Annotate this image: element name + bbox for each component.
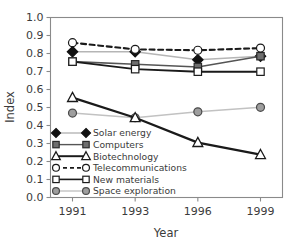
- y-tick-label: 0.2: [26, 155, 44, 168]
- data-point-marker: [131, 45, 139, 53]
- x-tick-label: 1991: [59, 205, 87, 218]
- legend-label: Telecommunications: [92, 162, 187, 173]
- data-point-marker: [257, 68, 264, 75]
- index-by-year-line-chart: 0.00.10.20.30.40.50.60.70.80.91.0 199119…: [0, 0, 296, 243]
- data-point-marker: [53, 176, 59, 182]
- legend-label: Biotechnology: [93, 151, 159, 162]
- y-tick-label: 0.7: [26, 65, 44, 78]
- y-tick-label: 0.4: [26, 119, 44, 132]
- data-point-marker: [53, 141, 59, 147]
- data-point-marker: [257, 44, 265, 52]
- legend-label: Computers: [93, 139, 144, 150]
- data-point-marker: [69, 58, 76, 65]
- y-tick-label: 0.1: [26, 173, 44, 186]
- data-point-marker: [53, 164, 60, 171]
- legend-label: Solar energy: [93, 127, 152, 138]
- data-point-marker: [257, 53, 264, 60]
- x-tick-label: 1999: [247, 205, 275, 218]
- data-point-marker: [83, 188, 90, 195]
- y-tick-label: 0.8: [26, 47, 44, 60]
- x-tick-label: 1996: [184, 205, 212, 218]
- y-tick-label: 1.0: [26, 11, 44, 24]
- y-tick-label: 0.5: [26, 101, 44, 114]
- data-point-marker: [194, 46, 202, 54]
- x-tick-label: 1993: [121, 205, 149, 218]
- data-point-marker: [131, 65, 138, 72]
- data-point-marker: [194, 68, 201, 75]
- y-axis-title: Index: [3, 91, 17, 123]
- data-point-marker: [83, 141, 89, 147]
- data-point-marker: [257, 103, 265, 111]
- x-axis-title: Year: [153, 226, 179, 240]
- data-point-marker: [194, 108, 202, 116]
- y-tick-label: 0.6: [26, 83, 44, 96]
- data-point-marker: [69, 39, 77, 47]
- data-point-marker: [83, 176, 89, 182]
- y-tick-label: 0.9: [26, 29, 44, 42]
- data-point-marker: [69, 109, 77, 117]
- data-point-marker: [83, 164, 90, 171]
- legend-label: New materials: [93, 174, 159, 185]
- chart-figure: 0.00.10.20.30.40.50.60.70.80.91.0 199119…: [0, 0, 296, 243]
- y-tick-label: 0.3: [26, 137, 44, 150]
- legend-label: Space exploration: [93, 185, 176, 196]
- y-tick-label: 0.0: [26, 191, 44, 204]
- data-point-marker: [53, 188, 60, 195]
